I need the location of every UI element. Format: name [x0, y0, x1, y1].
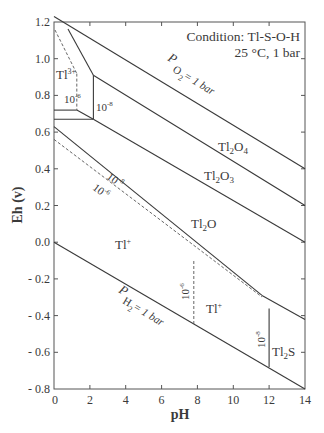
x-tick-labels: 0 2 4 6 8 10 12 14 — [52, 393, 311, 407]
po2-label-rest: = 1 bar — [182, 69, 218, 97]
field-tl2o3: Tl2O3 — [204, 168, 234, 185]
y-tick-1.0: 1.0 — [35, 52, 50, 66]
y-tick-0.2: 0.2 — [35, 199, 50, 213]
y-tick-0.4: 0.4 — [35, 162, 50, 176]
x-tick-2: 2 — [87, 393, 93, 407]
tl-tl2o-1e6-dashed — [54, 139, 262, 297]
ph2-label: P H 2 = 1 bar — [110, 281, 171, 331]
tl2o-tl2s-line — [262, 295, 305, 319]
po2-label: P O 2 = 1 bar — [159, 49, 222, 101]
condition-label: Condition: Tl-S-O-H — [187, 29, 301, 44]
y-tick-0.0: 0.0 — [35, 235, 50, 249]
field-tl2s: Tl2S — [272, 344, 295, 361]
activity-label-1e8-tl2s: 10-8 — [254, 331, 267, 348]
y-tick-1.2: 1.2 — [35, 15, 50, 29]
eh-ph-diagram: 0 2 4 6 8 10 12 14 1.2 1.0 0.8 0.6 0.4 0… — [0, 0, 324, 433]
tl2o4-tl2o3-line — [93, 75, 305, 205]
y-tick-minus-0.8: - 0.8 — [28, 382, 50, 396]
activity-label-1e8-tl3: 10-8 — [96, 100, 113, 113]
y-tick-minus-0.6: - 0.6 — [28, 345, 50, 359]
activity-label-1e6-tl2o: 10-6 — [91, 180, 113, 201]
y-ticks — [54, 59, 305, 353]
ph2-line — [54, 242, 305, 389]
activity-label-1e6-tl2s: 10-6 — [178, 283, 191, 300]
field-tl-plus-upper: Tl+ — [115, 237, 132, 252]
field-tl-plus-lower: Tl+ — [206, 301, 223, 316]
y-tick-0.6: 0.6 — [35, 125, 50, 139]
y-tick-0.8: 0.8 — [35, 88, 50, 102]
x-tick-4: 4 — [123, 393, 129, 407]
y-tick-minus-0.2: - 0.2 — [28, 272, 50, 286]
x-tick-8: 8 — [194, 393, 200, 407]
y-tick-minus-0.4: - 0.4 — [28, 309, 50, 323]
field-tl2o: Tl2O — [191, 216, 216, 233]
field-tl3: Tl3+ — [56, 67, 77, 82]
x-tick-14: 14 — [299, 393, 311, 407]
ph2-label-rest: = 1 bar — [131, 300, 167, 328]
x-axis-title: pH — [171, 407, 190, 422]
x-tick-6: 6 — [159, 393, 165, 407]
field-tl2o4: Tl2O4 — [218, 139, 248, 156]
activity-label-1e6-tl3: 10-6 — [64, 92, 81, 105]
x-tick-0: 0 — [52, 393, 58, 407]
tl3-connector — [77, 110, 94, 119]
y-tick-labels: 1.2 1.0 0.8 0.6 0.4 0.2 0.0 - 0.2 - 0.4 … — [28, 15, 50, 396]
x-tick-12: 12 — [263, 393, 275, 407]
condition-sublabel: 25 °C, 1 bar — [235, 45, 301, 60]
y-axis-title: Eh (v) — [10, 186, 26, 223]
x-tick-10: 10 — [227, 393, 239, 407]
